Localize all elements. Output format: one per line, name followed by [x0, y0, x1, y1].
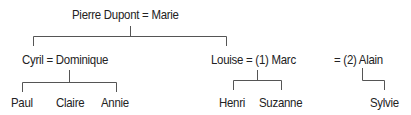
child-sylvie: Sylvie — [370, 95, 399, 110]
child-suzanne: Suzanne — [259, 95, 302, 110]
louise-marc-children-bracket — [234, 81, 282, 91]
couple-louise-alain: = (2) Alain — [334, 52, 383, 67]
couple-pierre-marie: Pierre Dupont = Marie — [72, 7, 179, 22]
child-annie: Annie — [101, 95, 129, 110]
child-henri: Henri — [219, 95, 245, 110]
couple-cyril-dominique: Cyril = Dominique — [22, 52, 108, 67]
alain-sylvie-connector — [363, 68, 385, 90]
child-claire: Claire — [56, 95, 84, 110]
couple-louise-marc: Louise = (1) Marc — [211, 52, 296, 67]
root-children-bracket — [34, 37, 227, 47]
family-tree: Pierre Dupont = Marie Cyril = Dominique … — [0, 0, 411, 115]
child-paul: Paul — [11, 95, 33, 110]
cyril-children-bracket — [23, 83, 117, 93]
